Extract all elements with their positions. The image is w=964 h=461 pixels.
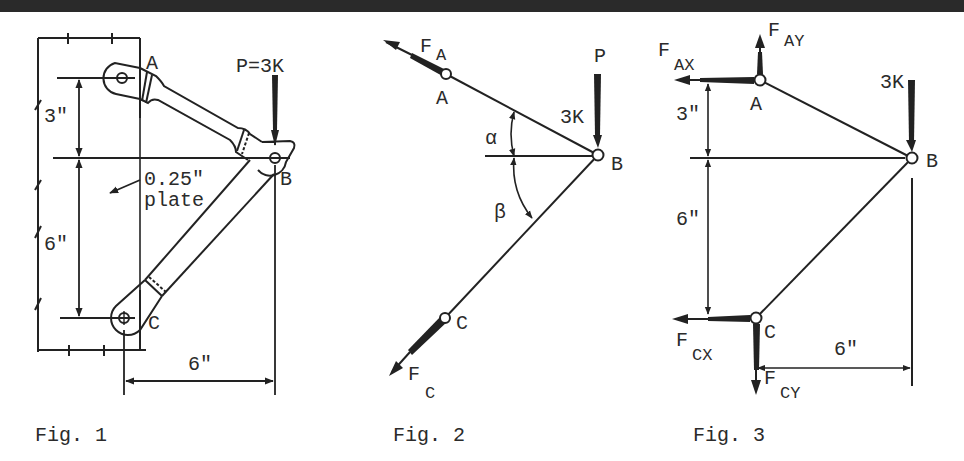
fig3-label-b: B (926, 150, 938, 173)
fig3-force-cy-label: F (764, 367, 776, 390)
fig2-label-a: A (436, 87, 448, 110)
fig1-dim-6in-vertical: 6" (44, 233, 68, 256)
load-arrow-p (271, 75, 279, 146)
fig3-force-cx-label: F (676, 329, 688, 352)
fig2-joint-b (593, 150, 604, 161)
fig1-plate-word: plate (144, 189, 204, 212)
fig2-force-c-label: F (408, 363, 420, 386)
fig3-force-ax-label: F (658, 39, 670, 62)
fig2-force-c-subscript: C (425, 384, 435, 403)
fig3-dim-6in-vertical: 6" (676, 208, 700, 231)
angle-alpha-arc (511, 112, 514, 156)
fig1-plate-thickness: 0.25" (144, 168, 204, 191)
fig2-force-a-subscript: A (436, 46, 447, 65)
fig3-force-ay-label: F (768, 19, 780, 42)
fig1-caption: Fig. 1 (35, 424, 107, 447)
fig3-dim-3in: 3" (676, 103, 700, 126)
fig2-load-arrow (593, 74, 602, 148)
fig3-force-cx-subscript: CX (692, 346, 712, 365)
fig3-dim-6in-horizontal: 6" (834, 338, 858, 361)
fig1-label-b: B (280, 168, 292, 191)
plate-frame (35, 33, 146, 356)
fig2-label-c: C (456, 312, 468, 335)
force-arrow-fcy (751, 324, 761, 395)
fig2-member-bc (445, 155, 598, 318)
fig3-force-ax-subscript: AX (674, 56, 694, 75)
fig2-load-value: 3K (560, 106, 584, 129)
fig2-joint-a (441, 69, 451, 79)
fig3-load-arrow (906, 80, 916, 152)
fig3-label-c: C (764, 321, 776, 344)
fig2-caption: Fig. 2 (393, 424, 465, 447)
fig3-member-bc (756, 158, 912, 318)
dimension-lines (53, 78, 290, 395)
fig1-dim-6in-horizontal: 6" (188, 353, 212, 376)
force-arrow-fcx (672, 314, 750, 324)
fig3-joint-c (751, 313, 762, 324)
fig2-label-b: B (611, 153, 623, 176)
angle-beta-arc (514, 158, 532, 218)
fig1-load-label: P=3K (236, 55, 284, 78)
figure-2: F A A P 3K B α β C F C Fig. 2 (383, 35, 623, 447)
fig3-force-ay-subscript: AY (784, 32, 804, 51)
diagram-canvas: A B C P=3K 3" 6" 6" 0.25" plate Fig. 1 (0, 0, 964, 461)
fig1-label-a: A (146, 52, 158, 75)
fig2-force-a-label: F (420, 35, 432, 58)
force-arrow-fay (755, 34, 765, 74)
fig3-joint-a (755, 75, 766, 86)
fig1-label-c: C (148, 312, 160, 335)
angle-beta-label: β (494, 201, 506, 224)
force-arrow-fax (674, 75, 754, 85)
fig2-joint-c (440, 313, 450, 323)
fig3-caption: Fig. 3 (693, 424, 765, 447)
fig3-joint-b (907, 153, 918, 164)
fig1-dim-3in: 3" (44, 105, 68, 128)
fig3-label-a: A (750, 93, 762, 116)
fig3-force-cy-subscript: CY (780, 384, 800, 403)
fig2-load-symbol: P (594, 45, 606, 68)
fig3-load-value: 3K (880, 71, 904, 94)
figure-3: F AX F AY A 3K B 3" 6" C F CX 6" F CY Fi… (658, 19, 938, 447)
angle-alpha-label: α (485, 127, 497, 150)
figure-1: A B C P=3K 3" 6" 6" 0.25" plate Fig. 1 (35, 33, 295, 447)
